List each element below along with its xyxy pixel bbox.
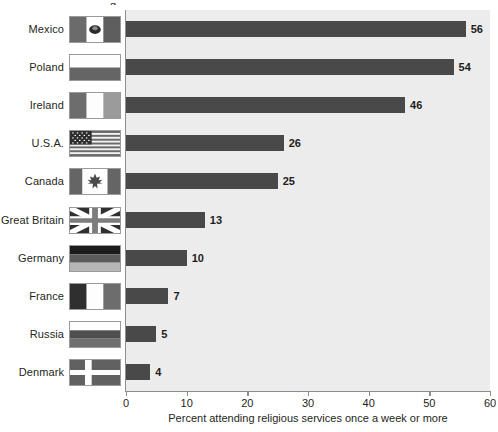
category-label-france: France (0, 277, 64, 315)
x-axis-tick (187, 391, 188, 396)
x-axis-tick (126, 391, 127, 396)
x-axis-tick-label: 30 (293, 397, 323, 409)
x-axis-title: Percent attending religious services onc… (126, 412, 490, 424)
bar-ireland (126, 97, 405, 113)
x-axis-tick (308, 391, 309, 396)
table-row: Ireland 46 (0, 86, 498, 124)
x-axis-tick-label: 60 (475, 397, 498, 409)
category-label-germany: Germany (0, 239, 64, 277)
bar-canada (126, 173, 278, 189)
table-row: Mexico 56 (0, 10, 498, 48)
bar-value-label: 26 (289, 134, 301, 152)
table-row: Poland 54 (0, 48, 498, 86)
category-label-canada: Canada (0, 162, 64, 200)
table-row: Denmark 4 (0, 353, 498, 391)
category-label-u-s-a-: U.S.A. (0, 124, 64, 162)
category-label-denmark: Denmark (0, 353, 64, 391)
bar-value-label: 10 (192, 249, 204, 267)
x-axis-tick-label: 50 (414, 397, 444, 409)
flag-mexico-icon (69, 16, 121, 43)
bar-chart: g Mexico 56Poland 54Ireland 46U.S.A. (0, 0, 498, 432)
bar-value-label: 4 (155, 363, 161, 381)
bar-mexico (126, 21, 466, 37)
bar-russia (126, 326, 156, 342)
x-axis-tick (490, 391, 491, 396)
bar-great-britain (126, 212, 205, 228)
bar-poland (126, 59, 454, 75)
x-axis-tick (429, 391, 430, 396)
bar-value-label: 54 (459, 58, 471, 76)
bar-value-label: 5 (161, 325, 167, 343)
category-label-ireland: Ireland (0, 86, 64, 124)
bar-value-label: 13 (210, 211, 222, 229)
x-axis-tick (369, 391, 370, 396)
x-axis-tick (247, 391, 248, 396)
table-row: France 7 (0, 277, 498, 315)
bar-u-s-a- (126, 135, 284, 151)
category-label-mexico: Mexico (0, 10, 64, 48)
flag-france-icon (69, 283, 121, 310)
category-label-great-britain: Great Britain (0, 201, 64, 239)
flag-canada-icon (69, 168, 121, 195)
cropped-title-fragment: g (110, 0, 170, 5)
flag-usa-icon (69, 130, 121, 157)
bar-value-label: 56 (471, 20, 483, 38)
bar-france (126, 288, 168, 304)
bar-denmark (126, 364, 150, 380)
table-row: Germany 10 (0, 239, 498, 277)
flag-russia-icon (69, 321, 121, 348)
bar-germany (126, 250, 187, 266)
flag-ireland-icon (69, 92, 121, 119)
flag-poland-icon (69, 54, 121, 81)
bar-value-label: 7 (173, 287, 179, 305)
x-axis-tick-label: 10 (172, 397, 202, 409)
bar-value-label: 46 (410, 96, 422, 114)
table-row: Canada 25 (0, 162, 498, 200)
flag-great-britain-icon (69, 207, 121, 234)
flag-denmark-icon (69, 359, 121, 386)
x-axis-tick-label: 20 (232, 397, 262, 409)
table-row: U.S.A. 26 (0, 124, 498, 162)
x-axis-tick-label: 40 (354, 397, 384, 409)
flag-germany-icon (69, 245, 121, 272)
table-row: Great Britain 13 (0, 201, 498, 239)
category-label-poland: Poland (0, 48, 64, 86)
x-axis-tick-label: 0 (111, 397, 141, 409)
table-row: Russia 5 (0, 315, 498, 353)
bar-value-label: 25 (283, 172, 295, 190)
category-label-russia: Russia (0, 315, 64, 353)
